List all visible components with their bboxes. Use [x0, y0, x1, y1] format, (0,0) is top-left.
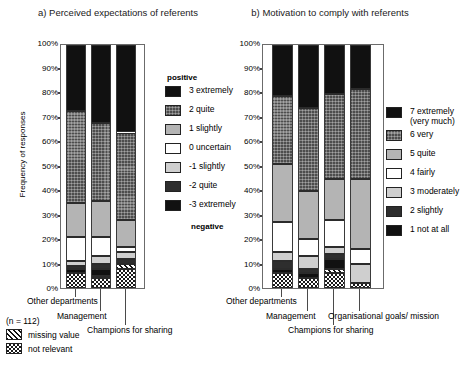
legend-swatch [386, 130, 402, 141]
category-label: Other departments [226, 296, 297, 306]
bar-segment [92, 269, 110, 276]
bar-segment [273, 269, 292, 274]
bar-segment [351, 179, 370, 249]
legend-swatch [386, 206, 402, 217]
bar-segment [325, 254, 344, 259]
legend-swatch [165, 105, 181, 116]
panel-a-title: a) Perceived expectations of referents [38, 7, 198, 19]
bar-segment [299, 273, 318, 278]
bar-segment [117, 220, 135, 247]
y-tick-label: 60% [234, 137, 260, 146]
bar-segment [117, 269, 135, 288]
bar-segment [67, 261, 85, 266]
bar-segment [92, 276, 110, 278]
legend-item: -2 quite [165, 180, 236, 199]
y-tick-label: 20% [234, 235, 260, 244]
legend-swatch [165, 124, 181, 135]
bar-segment [117, 264, 135, 269]
stacked-bar [91, 45, 111, 288]
bar-segment [325, 273, 344, 288]
bar-segment [299, 269, 318, 274]
bar-segment [299, 191, 318, 240]
bar-segment [351, 249, 370, 264]
category-label: Other departments [27, 296, 98, 306]
category-label: Champions for sharing [87, 325, 173, 335]
legend-item: -3 extremely [165, 199, 236, 218]
bar-segment [273, 45, 292, 96]
legend-swatch [386, 187, 402, 198]
y-tick-label: 100% [234, 39, 260, 48]
legend-item-label: 1 not at all [410, 224, 449, 234]
legend-item: 5 quite [386, 148, 459, 167]
bar-segment [117, 252, 135, 259]
panel-a-plot-area [60, 44, 145, 289]
category-leader-line [307, 289, 308, 311]
category-label: Management [266, 311, 316, 321]
legend-swatch [386, 149, 402, 160]
legend-item: 4 fairly [386, 167, 459, 186]
legend-swatch [386, 225, 402, 236]
figure-notes: (n = 112) missing valuenot relevant [6, 316, 80, 357]
bar-segment [299, 108, 318, 191]
legend-item: 3 moderately [386, 186, 459, 205]
legend-a-footer: negative [165, 222, 236, 231]
y-tick-label: 80% [32, 88, 58, 97]
legend-item-label: 0 uncertain [189, 142, 231, 152]
y-tick-label: 100% [32, 39, 58, 48]
legend-a-header: positive [165, 73, 236, 82]
y-tick-label: 40% [32, 186, 58, 195]
bar-segment [67, 273, 85, 288]
bar-segment [92, 264, 110, 269]
bar-segment [117, 259, 135, 264]
y-axis-label: Frequency of responses [18, 85, 27, 225]
bar-segment [325, 94, 344, 179]
stacked-bar-figure: a) Perceived expectations of referents b… [0, 0, 460, 369]
note-label: not relevant [28, 344, 72, 354]
legend-swatch [386, 168, 402, 179]
bar-segment [67, 111, 85, 203]
legend-swatch [165, 143, 181, 154]
y-tick-label: 80% [234, 88, 260, 97]
bar-segment [92, 123, 110, 201]
y-tick-label: 40% [234, 186, 260, 195]
category-leader-line [359, 289, 360, 311]
panel-b-title: b) Motivation to comply with referents [250, 7, 410, 19]
bar-segment [92, 256, 110, 263]
legend-item-label: -3 extremely [189, 199, 236, 209]
y-tick-label: 70% [32, 113, 58, 122]
bar-segment [67, 45, 85, 111]
note-item: missing value [6, 329, 80, 340]
stacked-bar [272, 45, 293, 288]
stacked-bar [298, 45, 319, 288]
y-tick-label: 90% [234, 64, 260, 73]
bar-segment [299, 278, 318, 288]
bar-segment [92, 237, 110, 256]
bar-segment [273, 252, 292, 262]
bar-segment [67, 237, 85, 261]
category-leader-line [125, 289, 126, 325]
note-label: missing value [28, 330, 80, 340]
y-tick-label: 50% [32, 162, 58, 171]
stacked-bar [324, 45, 345, 288]
bar-segment [92, 201, 110, 237]
legend-item-label: 2 quite [189, 104, 215, 114]
bar-segment [273, 222, 292, 251]
y-tick-label: 90% [32, 64, 58, 73]
y-tick-label: 70% [234, 113, 260, 122]
y-tick-label: 30% [234, 211, 260, 220]
sample-size-note: (n = 112) [6, 316, 80, 326]
y-tick-label: 20% [32, 235, 58, 244]
panel-b-plot-area [262, 44, 384, 289]
bar-segment [92, 278, 110, 288]
legend-item: 3 extremely [165, 85, 236, 104]
bar-segment [273, 261, 292, 268]
y-tick-label: 30% [32, 211, 58, 220]
legend-item-label: 3 extremely [189, 85, 233, 95]
bar-segment [67, 203, 85, 237]
legend-item-label: 5 quite [410, 148, 436, 158]
y-tick-label: 0% [234, 284, 260, 293]
bar-segment [117, 133, 135, 220]
bar-segment [67, 269, 85, 274]
legend-item: 6 very [386, 129, 459, 148]
legend-swatch [165, 181, 181, 192]
